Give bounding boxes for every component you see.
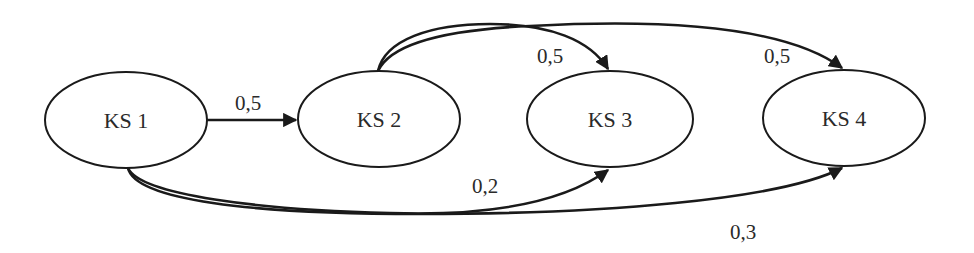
node-ks4: KS 4 [763,70,925,166]
node-label: KS 4 [822,106,867,131]
node-ks2: KS 2 [298,71,460,167]
node-label: KS 3 [588,107,633,132]
node-ks3: KS 3 [527,71,693,167]
state-diagram: KS 1 KS 2 KS 3 KS 4 0,5 0,5 0,5 0,2 0,3 [0,0,974,253]
edge-ks1-ks3 [128,168,608,213]
edge-ks2-ks3 [378,24,608,71]
edge-label-ks2-ks3: 0,5 [537,44,563,68]
edge-label-ks1-ks3: 0,2 [472,174,498,198]
edge-label-ks1-ks2: 0,5 [235,91,261,115]
node-label: KS 2 [357,107,402,132]
node-ks1: KS 1 [45,72,207,168]
edge-label-ks2-ks4: 0,5 [764,44,790,68]
edge-label-ks1-ks4: 0,3 [730,220,756,244]
node-label: KS 1 [104,108,149,133]
